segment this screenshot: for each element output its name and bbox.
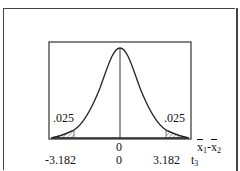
right-tail-label: .025 [164,112,185,124]
lower-axis-right-critical: 3.182 [153,154,180,166]
lower-axis-label: t3 [191,154,198,170]
left-tail-label: .025 [53,112,74,124]
lower-axis-zero: 0 [116,154,122,166]
upper-axis-label: x1-x2 [197,141,221,157]
upper-axis-zero: 0 [116,141,122,153]
lower-axis-left-critical: -3.182 [45,154,76,166]
